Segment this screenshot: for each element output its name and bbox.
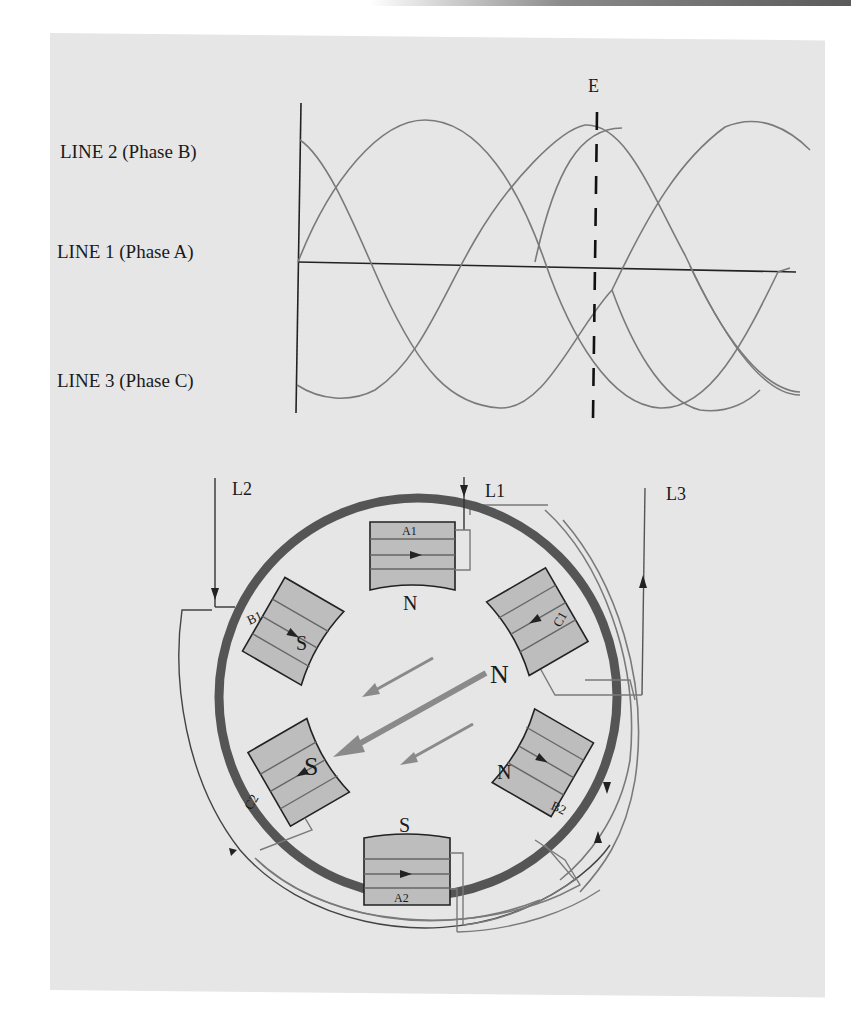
l3-label: L3	[666, 484, 686, 504]
phase-c-wave-tail	[690, 266, 800, 392]
rotor-field-north: N	[490, 660, 509, 689]
field-arrows	[333, 658, 486, 765]
l1-label: L1	[485, 481, 505, 501]
marker-e-dashed-line	[593, 112, 597, 418]
upper-field-arrowhead-icon	[362, 683, 380, 697]
upper-field-arrow	[372, 658, 433, 692]
a1-label: A1	[402, 524, 417, 538]
l2-arc-arrow-icon	[229, 848, 237, 856]
line2-label: LINE 2 (Phase B)	[60, 141, 197, 163]
marker-e-label: E	[588, 76, 599, 96]
a2-label: A2	[394, 891, 409, 905]
a2-return-loop	[457, 890, 600, 932]
l2-arrow-icon	[211, 588, 219, 600]
b1-polarity: S	[296, 632, 307, 654]
pole-b1	[242, 577, 343, 685]
l2-label: L2	[232, 479, 252, 499]
phase-c-wave	[297, 125, 800, 398]
pole-a2: A2 S	[364, 814, 463, 932]
c1-lead	[585, 680, 635, 700]
a2-polarity: S	[399, 814, 410, 836]
lower-field-arrow	[412, 724, 473, 758]
line3-label: LINE 3 (Phase C)	[57, 370, 194, 392]
b2-polarity: N	[497, 761, 511, 783]
rotor-field-south: S	[304, 752, 318, 781]
motor-diagram: L2 L1 L3 A1 N B1 S	[179, 477, 686, 932]
right-arc-arrow-down-icon	[603, 782, 611, 794]
line1-label: LINE 1 (Phase A)	[57, 241, 194, 263]
phase-b-wave	[300, 121, 810, 408]
pole-a1: A1 N	[370, 522, 470, 614]
right-arc-arrow-up-icon	[594, 831, 602, 843]
l3-arrow-icon	[639, 575, 647, 588]
main-field-arrowhead-icon	[333, 735, 365, 757]
main-field-arrow	[348, 673, 486, 750]
lower-field-arrowhead-icon	[400, 752, 418, 765]
waveform-chart: LINE 2 (Phase B) LINE 1 (Phase A) LINE 3…	[57, 76, 810, 418]
l1-arrow-icon	[460, 485, 468, 497]
a1-polarity: N	[403, 592, 417, 614]
pole-c2	[248, 718, 349, 826]
supply-l3-wire	[642, 488, 645, 695]
figure-canvas: LINE 2 (Phase B) LINE 1 (Phase A) LINE 3…	[0, 0, 851, 1023]
